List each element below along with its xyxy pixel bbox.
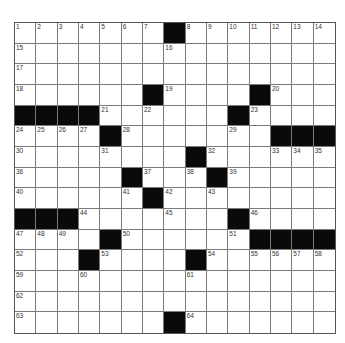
grid-cell[interactable] bbox=[228, 188, 249, 209]
grid-cell[interactable] bbox=[164, 126, 185, 147]
grid-cell[interactable] bbox=[58, 312, 79, 333]
grid-cell[interactable]: 14 bbox=[314, 23, 335, 44]
grid-cell[interactable]: 45 bbox=[164, 209, 185, 230]
grid-cell[interactable] bbox=[143, 271, 164, 292]
grid-cell[interactable] bbox=[228, 250, 249, 271]
grid-cell[interactable] bbox=[228, 312, 249, 333]
grid-cell[interactable] bbox=[100, 188, 121, 209]
grid-cell[interactable]: 25 bbox=[36, 126, 57, 147]
grid-cell[interactable] bbox=[314, 106, 335, 127]
grid-cell[interactable] bbox=[314, 64, 335, 85]
grid-cell[interactable] bbox=[186, 64, 207, 85]
grid-cell[interactable] bbox=[143, 209, 164, 230]
grid-cell[interactable]: 54 bbox=[207, 250, 228, 271]
grid-cell[interactable] bbox=[292, 188, 313, 209]
grid-cell[interactable]: 56 bbox=[271, 250, 292, 271]
grid-cell[interactable] bbox=[271, 209, 292, 230]
grid-cell[interactable] bbox=[79, 292, 100, 313]
grid-cell[interactable]: 12 bbox=[271, 23, 292, 44]
grid-cell[interactable]: 43 bbox=[207, 188, 228, 209]
grid-cell[interactable] bbox=[36, 188, 57, 209]
grid-cell[interactable] bbox=[271, 44, 292, 65]
grid-cell[interactable] bbox=[79, 64, 100, 85]
grid-cell[interactable] bbox=[314, 44, 335, 65]
grid-cell[interactable]: 29 bbox=[228, 126, 249, 147]
grid-cell[interactable] bbox=[100, 85, 121, 106]
grid-cell[interactable]: 63 bbox=[15, 312, 36, 333]
grid-cell[interactable] bbox=[143, 230, 164, 251]
grid-cell[interactable] bbox=[100, 292, 121, 313]
grid-cell[interactable]: 27 bbox=[79, 126, 100, 147]
grid-cell[interactable] bbox=[122, 312, 143, 333]
grid-cell[interactable] bbox=[292, 292, 313, 313]
grid-cell[interactable] bbox=[228, 44, 249, 65]
grid-cell[interactable] bbox=[292, 271, 313, 292]
grid-cell[interactable]: 42 bbox=[164, 188, 185, 209]
grid-cell[interactable] bbox=[186, 230, 207, 251]
grid-cell[interactable] bbox=[207, 312, 228, 333]
grid-cell[interactable]: 53 bbox=[100, 250, 121, 271]
grid-cell[interactable]: 11 bbox=[250, 23, 271, 44]
grid-cell[interactable] bbox=[314, 292, 335, 313]
grid-cell[interactable] bbox=[271, 271, 292, 292]
grid-cell[interactable]: 64 bbox=[186, 312, 207, 333]
grid-cell[interactable] bbox=[292, 64, 313, 85]
grid-cell[interactable] bbox=[164, 230, 185, 251]
grid-cell[interactable] bbox=[314, 188, 335, 209]
grid-cell[interactable]: 61 bbox=[186, 271, 207, 292]
grid-cell[interactable] bbox=[207, 292, 228, 313]
grid-cell[interactable] bbox=[314, 312, 335, 333]
grid-cell[interactable]: 13 bbox=[292, 23, 313, 44]
grid-cell[interactable] bbox=[58, 168, 79, 189]
grid-cell[interactable]: 32 bbox=[207, 147, 228, 168]
grid-cell[interactable] bbox=[207, 85, 228, 106]
grid-cell[interactable]: 7 bbox=[143, 23, 164, 44]
grid-cell[interactable] bbox=[100, 271, 121, 292]
grid-cell[interactable] bbox=[58, 85, 79, 106]
grid-cell[interactable] bbox=[58, 250, 79, 271]
grid-cell[interactable] bbox=[314, 209, 335, 230]
grid-cell[interactable] bbox=[314, 168, 335, 189]
grid-cell[interactable]: 18 bbox=[15, 85, 36, 106]
grid-cell[interactable] bbox=[292, 44, 313, 65]
grid-cell[interactable]: 35 bbox=[314, 147, 335, 168]
grid-cell[interactable]: 46 bbox=[250, 209, 271, 230]
grid-cell[interactable] bbox=[186, 85, 207, 106]
grid-cell[interactable] bbox=[58, 271, 79, 292]
grid-cell[interactable]: 19 bbox=[164, 85, 185, 106]
grid-cell[interactable] bbox=[79, 188, 100, 209]
grid-cell[interactable] bbox=[79, 85, 100, 106]
grid-cell[interactable] bbox=[271, 64, 292, 85]
grid-cell[interactable]: 5 bbox=[100, 23, 121, 44]
grid-cell[interactable] bbox=[207, 64, 228, 85]
grid-cell[interactable]: 9 bbox=[207, 23, 228, 44]
grid-cell[interactable]: 52 bbox=[15, 250, 36, 271]
grid-cell[interactable]: 20 bbox=[271, 85, 292, 106]
grid-cell[interactable]: 38 bbox=[186, 168, 207, 189]
grid-cell[interactable] bbox=[207, 271, 228, 292]
grid-cell[interactable]: 16 bbox=[164, 44, 185, 65]
grid-cell[interactable] bbox=[122, 85, 143, 106]
grid-cell[interactable] bbox=[228, 271, 249, 292]
grid-cell[interactable]: 6 bbox=[122, 23, 143, 44]
grid-cell[interactable] bbox=[79, 147, 100, 168]
grid-cell[interactable]: 24 bbox=[15, 126, 36, 147]
grid-cell[interactable] bbox=[122, 292, 143, 313]
grid-cell[interactable] bbox=[36, 168, 57, 189]
grid-cell[interactable] bbox=[186, 188, 207, 209]
grid-cell[interactable]: 50 bbox=[122, 230, 143, 251]
grid-cell[interactable] bbox=[143, 64, 164, 85]
grid-cell[interactable]: 33 bbox=[271, 147, 292, 168]
grid-cell[interactable] bbox=[250, 147, 271, 168]
grid-cell[interactable] bbox=[164, 64, 185, 85]
grid-cell[interactable] bbox=[250, 126, 271, 147]
grid-cell[interactable] bbox=[58, 188, 79, 209]
grid-cell[interactable]: 4 bbox=[79, 23, 100, 44]
grid-cell[interactable] bbox=[186, 292, 207, 313]
grid-cell[interactable]: 55 bbox=[250, 250, 271, 271]
grid-cell[interactable]: 41 bbox=[122, 188, 143, 209]
grid-cell[interactable] bbox=[164, 250, 185, 271]
grid-cell[interactable]: 47 bbox=[15, 230, 36, 251]
grid-cell[interactable] bbox=[143, 312, 164, 333]
grid-cell[interactable] bbox=[228, 292, 249, 313]
